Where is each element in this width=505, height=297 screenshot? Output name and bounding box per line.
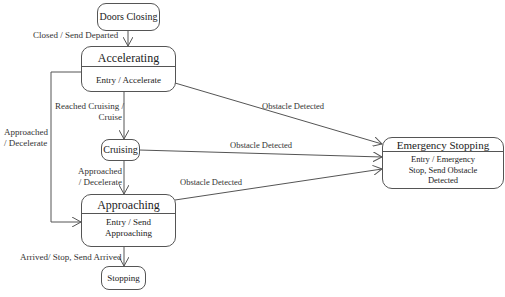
state-entry-action: Entry / Send Approaching <box>82 217 175 239</box>
arrow-cruising-to-emergency <box>139 150 382 157</box>
state-title: Cruising <box>102 145 139 155</box>
state-divider <box>82 213 175 214</box>
transition-label-approached-loop: Approached / Decelerate <box>4 127 48 149</box>
transition-label-arrived: Arrived/ Stop, Send Arrived <box>20 251 122 263</box>
state-divider <box>82 66 175 67</box>
state-title: Emergency Stopping <box>383 140 503 151</box>
label-line: Reached Cruising / <box>55 101 122 112</box>
label-line: / Decelerate <box>78 177 122 188</box>
state-emergency-stopping[interactable]: Emergency Stopping Entry / Emergency Sto… <box>382 137 504 189</box>
label-line: Approached <box>78 166 122 177</box>
state-title: Doors Closing <box>98 12 159 22</box>
state-doors-closing[interactable]: Doors Closing <box>97 3 160 31</box>
arrow-accelerating-to-emergency <box>175 83 382 144</box>
transition-label-reached-cruising: Reached Cruising / Cruise <box>55 101 122 123</box>
entry-line: Entry / Emergency <box>383 154 503 165</box>
state-divider <box>383 151 503 152</box>
state-stopping[interactable]: Stopping <box>101 266 146 290</box>
state-title: Approaching <box>82 199 175 211</box>
state-entry-action: Entry / Emergency Stop, Send Obstacle De… <box>383 154 503 186</box>
state-title: Accelerating <box>82 52 175 64</box>
transition-label-obstacle-cruising: Obstacle Detected <box>230 139 292 151</box>
transition-label-obstacle-accelerating: Obstacle Detected <box>262 100 324 112</box>
state-title: Stopping <box>102 274 145 283</box>
transition-label-obstacle-approaching: Obstacle Detected <box>180 176 242 188</box>
state-cruising[interactable]: Cruising <box>101 139 140 161</box>
label-line: Cruise <box>55 112 122 123</box>
state-approaching[interactable]: Approaching Entry / Send Approaching <box>81 194 176 247</box>
entry-line: Detected <box>383 175 503 186</box>
state-accelerating[interactable]: Accelerating Entry / Accelerate <box>81 46 176 92</box>
arrow-accelerating-to-approaching <box>51 72 81 222</box>
entry-line: Stop, Send Obstacle <box>383 165 503 176</box>
entry-line: Entry / Send <box>82 217 175 228</box>
label-line: / Decelerate <box>4 138 48 149</box>
label-line: Approached <box>4 127 48 138</box>
transition-label-closed: Closed / Send Departed <box>33 29 118 41</box>
entry-line: Approaching <box>82 228 175 239</box>
state-entry-action: Entry / Accelerate <box>82 74 175 86</box>
transition-label-approached-cruising: Approached / Decelerate <box>78 166 122 188</box>
